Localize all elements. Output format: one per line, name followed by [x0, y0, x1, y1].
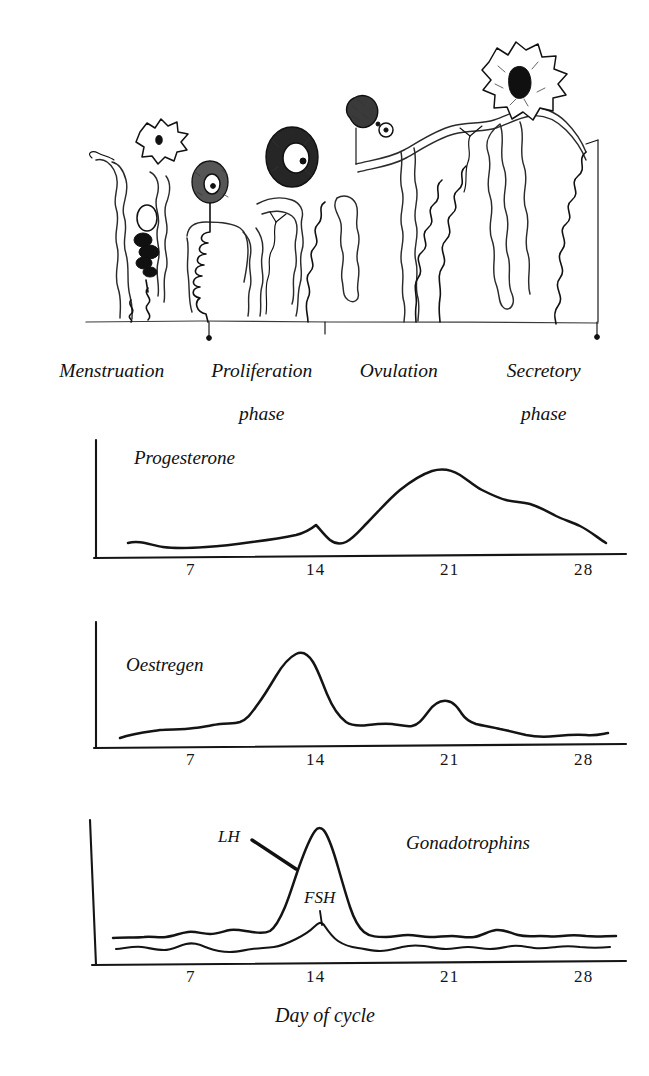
sawtooth-gland-1 — [401, 152, 405, 322]
corpus-luteum-icon — [482, 42, 567, 120]
glandular-tube-3b — [262, 211, 297, 304]
phase-label-menstruation: Menstruation — [16, 338, 188, 403]
glandular-tube-5 — [335, 196, 359, 302]
coiled-gland-7 — [439, 166, 466, 322]
right-boundary-bracket — [586, 140, 598, 144]
phase-label-secretory-line2: phase — [521, 403, 567, 424]
gland-tube-1 — [96, 160, 121, 318]
menstrual-cycle-figure: Menstruation Proliferation phase Ovulati… — [0, 0, 649, 1076]
prolif-gland-outer-2 — [187, 238, 192, 312]
fsh-curve — [116, 923, 610, 952]
primary-follicle-icon — [192, 161, 228, 203]
secretory-gland-large-inner — [520, 122, 530, 294]
progesterone-x-axis — [94, 554, 626, 558]
ruptured-follicle-icon — [347, 96, 393, 164]
gland-branch-arrow — [266, 222, 276, 314]
lh-label: LH — [218, 827, 240, 846]
late-proliferative-glands — [257, 196, 359, 322]
prolif-gland-right-2 — [256, 228, 263, 316]
oestrogen-x-axis — [94, 744, 626, 748]
progesterone-tick-14: 14 — [306, 560, 325, 580]
progesterone-chart — [0, 430, 649, 610]
degenerating-corpus-luteum-icon — [136, 119, 188, 164]
proliferation-gland-cluster — [187, 198, 263, 322]
menstrual-debris — [134, 205, 159, 292]
menstrual-gland-cluster — [90, 152, 170, 322]
prolif-gland-right — [243, 232, 251, 316]
oestrogen-tick-14: 14 — [306, 750, 325, 770]
progesterone-label: Progesterone — [134, 447, 235, 468]
progesterone-tick-21: 21 — [440, 560, 459, 580]
coiled-gland-6 — [415, 180, 442, 322]
progesterone-tick-7: 7 — [186, 560, 196, 580]
lh-leader-line — [252, 840, 296, 869]
right-edge-gland — [555, 152, 586, 324]
lh-curve — [113, 828, 616, 938]
x-axis-caption: Day of cycle — [190, 1004, 460, 1027]
gland-tube-1b — [112, 162, 132, 319]
endometrium-diagram — [0, 0, 649, 340]
phase-label-proliferation-line2: phase — [239, 403, 285, 424]
oestrogen-label: Oestregen — [126, 654, 203, 675]
secretory-gland-cluster — [356, 108, 598, 324]
progesterone-tick-28: 28 — [574, 560, 593, 580]
fsh-label: FSH — [304, 888, 335, 907]
secretory-surface-epithelium-2 — [358, 116, 586, 172]
coiled-gland-4 — [306, 202, 325, 322]
oestrogen-tick-28: 28 — [574, 750, 593, 770]
phase-label-menstruation-line1: Menstruation — [59, 360, 164, 381]
gonadotrophins-tick-28: 28 — [574, 967, 593, 987]
secretory-gland-large — [487, 124, 513, 309]
endometrium-baseline — [86, 321, 598, 323]
gonadotrophins-tick-21: 21 — [440, 967, 459, 987]
gonadotrophins-y-axis — [90, 820, 96, 965]
phase-label-proliferation-line1: Proliferation — [211, 360, 312, 381]
phase-label-ovulation-line1: Ovulation — [360, 360, 438, 381]
gonadotrophins-tick-14: 14 — [306, 967, 325, 987]
gonadotrophins-label: Gonadotrophins — [406, 832, 530, 853]
progesterone-curve — [128, 470, 606, 549]
gonadotrophins-tick-7: 7 — [186, 967, 196, 987]
gland-tube-2b — [164, 176, 170, 302]
phase-label-ovulation: Ovulation — [328, 338, 450, 403]
gonadotrophins-x-axis — [92, 961, 626, 965]
straight-gland-coil — [193, 198, 210, 322]
gland-apex-curl-1 — [90, 152, 114, 160]
gland-branch-y — [464, 136, 470, 192]
mature-graafian-follicle-icon — [266, 127, 318, 187]
oestrogen-tick-7: 7 — [186, 750, 196, 770]
phase-label-secretory-line1: Secretory — [507, 360, 581, 381]
oestrogen-tick-21: 21 — [440, 750, 459, 770]
